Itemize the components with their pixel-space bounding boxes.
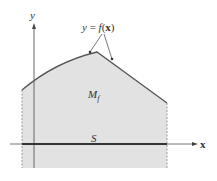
curve-close: ) (111, 21, 115, 34)
shaded-region-mf (22, 52, 167, 168)
y-axis-arrow-icon (32, 23, 36, 29)
leader-dot-left (89, 51, 92, 54)
leader-line-right (104, 34, 112, 59)
leader-line-left (90, 34, 102, 52)
leader-dot-right (111, 58, 114, 61)
region-diagram: y x y = f(x) Mf S (0, 0, 217, 181)
base-label-s: S (91, 132, 97, 144)
x-axis-arrow-icon (192, 142, 198, 146)
curve-equation-label: y = f(x) (81, 21, 115, 34)
x-axis-label: x (200, 138, 206, 150)
curve-eq: = (87, 21, 99, 33)
y-axis-label: y (29, 9, 35, 21)
